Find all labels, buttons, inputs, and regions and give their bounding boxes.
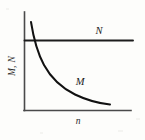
y-axis-label: M, N <box>7 56 17 78</box>
curve-label-n: N <box>94 25 103 36</box>
figure-container: N M n M, N <box>0 0 145 140</box>
curve-label-m: M <box>75 76 86 87</box>
x-axis-label: n <box>76 116 81 126</box>
plot-area: N M n M, N <box>0 0 145 140</box>
